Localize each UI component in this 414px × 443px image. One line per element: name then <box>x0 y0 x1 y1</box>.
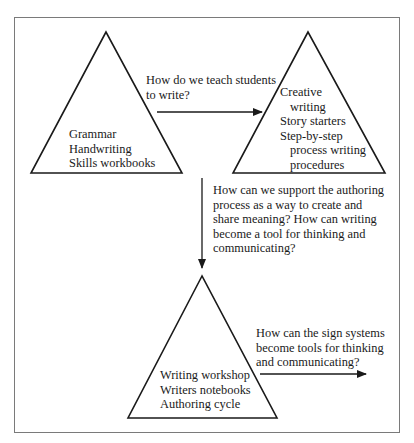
triangle-traditional-label: Grammar Handwriting Skills workbooks <box>69 127 155 171</box>
label-line: Writers notebooks <box>160 383 251 398</box>
question-line: process as a way to create and <box>213 198 384 213</box>
question-line: How do we teach students <box>146 73 276 88</box>
question-line: become tools for thinking <box>256 341 385 356</box>
label-line: Creative <box>280 85 366 100</box>
label-line: Authoring cycle <box>160 397 251 412</box>
label-line: Grammar <box>69 127 155 142</box>
triangle-authoring-label: Writing workshop Writers notebooks Autho… <box>160 368 251 412</box>
question-line: How can we support the authoring <box>213 183 384 198</box>
question-line: and communicating? <box>256 355 385 370</box>
label-line: Handwriting <box>69 142 155 157</box>
label-line: process writing <box>280 143 366 158</box>
question-2: How can we support the authoring process… <box>213 183 384 256</box>
label-line: Writing workshop <box>160 368 251 383</box>
question-line: to write? <box>146 88 276 103</box>
label-line: procedures <box>280 158 366 173</box>
triangle-process-label: Creative writing Story starters Step-by-… <box>280 85 366 173</box>
question-line: communicating? <box>213 241 384 256</box>
question-3: How can the sign systems become tools fo… <box>256 326 385 370</box>
question-line: share meaning? How can writing <box>213 212 384 227</box>
label-line: Story starters <box>280 114 366 129</box>
question-line: become a tool for thinking and <box>213 227 384 242</box>
label-line: Skills workbooks <box>69 156 155 171</box>
label-line: Step-by-step <box>280 129 366 144</box>
question-1: How do we teach students to write? <box>146 73 276 102</box>
label-line: writing <box>280 100 366 115</box>
question-line: How can the sign systems <box>256 326 385 341</box>
